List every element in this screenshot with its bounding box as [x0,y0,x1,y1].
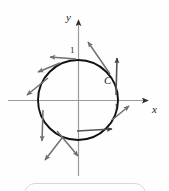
curve-label-C: C [104,75,111,86]
y-axis-label: y [66,12,71,23]
vector-bottom-left [57,131,78,156]
vector-bottom [77,129,112,131]
vector-lower-left-outer [45,138,62,160]
vector-right-upper [116,58,117,95]
vector-upper-right [88,42,110,74]
figure-panel: y x C 1 1 [0,0,169,191]
x-axis-label: x [152,104,157,115]
vector-upper-left [38,63,60,72]
vector-top [50,57,76,59]
y-axis-tick-label-1: 1 [70,46,75,55]
vector-left-lower [42,110,43,141]
axes-group [8,20,148,176]
caption-box-outline [24,183,146,191]
vector-left-upper [27,78,48,95]
figure-canvas [0,0,169,191]
x-axis-tick-label-1: 1 [114,103,119,112]
